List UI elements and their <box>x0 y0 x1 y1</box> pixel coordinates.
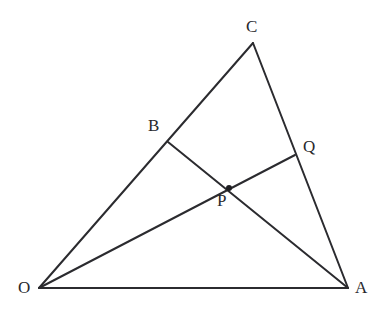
segment-O-C <box>39 43 253 288</box>
vertex-label-o: O <box>18 279 30 296</box>
segment-B-A <box>168 142 348 288</box>
vertex-label-b: B <box>148 117 159 134</box>
marker-layer <box>226 185 232 191</box>
geometry-canvas <box>0 0 382 316</box>
segment-O-Q <box>39 155 295 288</box>
geometry-figure: OACBQP <box>0 0 382 316</box>
segment-C-A <box>253 43 348 288</box>
vertex-label-q: Q <box>303 138 315 155</box>
vertex-label-a: A <box>355 279 367 296</box>
vertex-label-c: C <box>246 18 257 35</box>
segment-layer <box>39 43 348 288</box>
point-marker-p <box>226 185 232 191</box>
vertex-label-p: P <box>217 192 226 209</box>
